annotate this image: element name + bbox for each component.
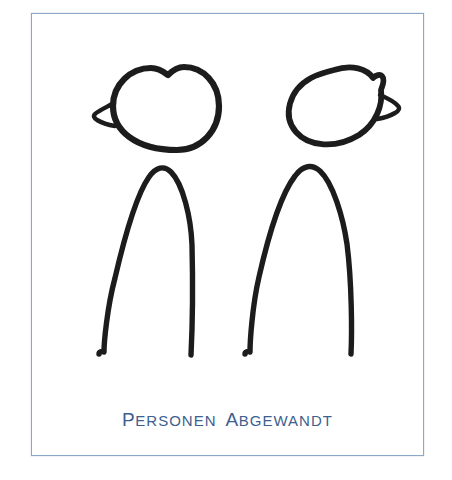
caption-word-1-lead: P bbox=[122, 409, 135, 430]
head-right-outline bbox=[289, 67, 384, 144]
body-left-arch bbox=[99, 168, 192, 355]
caption-word-1-rest: ERSONEN bbox=[135, 412, 216, 429]
caption-word-1: PERSONEN bbox=[122, 409, 216, 432]
figure-right bbox=[245, 67, 399, 354]
screenshot-canvas: PERSONENABGEWANDT bbox=[0, 0, 452, 480]
body-right-arch bbox=[245, 167, 352, 354]
head-left-outline bbox=[113, 67, 219, 150]
caption: PERSONENABGEWANDT bbox=[31, 409, 424, 432]
caption-word-2: ABGEWANDT bbox=[226, 409, 333, 432]
caption-word-2-rest: BGEWANDT bbox=[239, 412, 333, 429]
caption-word-2-lead: A bbox=[226, 409, 239, 430]
figure-left bbox=[94, 67, 219, 355]
stick-figures-illustration bbox=[31, 13, 424, 456]
illustration-area bbox=[31, 13, 424, 456]
